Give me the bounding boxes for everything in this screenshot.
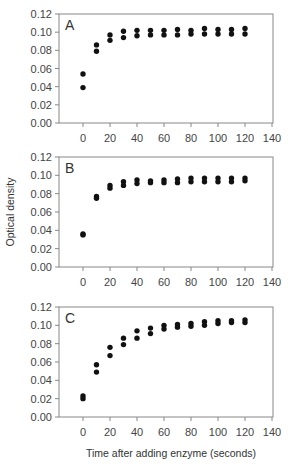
- data-point: [229, 31, 234, 36]
- x-tick-label: 60: [158, 276, 170, 288]
- x-tick-label: 140: [263, 426, 281, 438]
- plot-frame: [59, 157, 273, 267]
- data-point: [188, 324, 193, 329]
- data-point: [215, 179, 220, 184]
- data-point: [161, 32, 166, 37]
- y-tick-label: 0.10: [31, 169, 52, 181]
- panel-label: A: [65, 17, 75, 33]
- data-point: [80, 232, 85, 237]
- data-point: [242, 26, 247, 31]
- data-point: [107, 32, 112, 37]
- data-point: [202, 26, 207, 31]
- panel-c: 0.000.020.040.060.080.100.12020406080100…: [31, 301, 282, 438]
- y-tick-label: 0.12: [31, 151, 52, 163]
- data-point: [121, 29, 126, 34]
- x-tick-label: 20: [104, 276, 116, 288]
- panel-a: 0.000.020.040.060.080.100.12020406080100…: [31, 8, 282, 144]
- y-tick-label: 0.12: [31, 8, 52, 20]
- panel-label: B: [65, 160, 74, 176]
- x-tick-label: 80: [185, 276, 197, 288]
- y-tick-label: 0.08: [31, 44, 52, 56]
- data-point: [202, 179, 207, 184]
- x-tick-label: 120: [236, 426, 254, 438]
- data-point: [161, 180, 166, 185]
- data-point: [175, 324, 180, 329]
- x-tick-label: 20: [104, 426, 116, 438]
- x-tick-label: 60: [158, 132, 170, 144]
- data-point: [134, 328, 139, 333]
- data-point: [188, 179, 193, 184]
- data-point: [242, 320, 247, 325]
- data-point: [148, 325, 153, 330]
- x-tick-label: 120: [236, 132, 254, 144]
- y-tick-label: 0.08: [31, 338, 52, 350]
- y-tick-label: 0.08: [31, 188, 52, 200]
- plot-frame: [59, 307, 273, 417]
- data-point: [175, 180, 180, 185]
- y-tick-label: 0.02: [31, 99, 52, 111]
- data-point: [175, 32, 180, 37]
- y-tick-label: 0.10: [31, 319, 52, 331]
- x-axis-title: Time after adding enzyme (seconds): [86, 447, 256, 459]
- x-tick-label: 0: [80, 132, 86, 144]
- y-tick-label: 0.00: [31, 411, 52, 423]
- data-point: [134, 33, 139, 38]
- data-point: [134, 181, 139, 186]
- x-tick-label: 20: [104, 132, 116, 144]
- data-point: [161, 326, 166, 331]
- data-point: [148, 32, 153, 37]
- y-tick-label: 0.12: [31, 301, 52, 313]
- data-point: [242, 178, 247, 183]
- data-point: [121, 342, 126, 347]
- data-point: [148, 180, 153, 185]
- data-point: [94, 49, 99, 54]
- data-point: [242, 31, 247, 36]
- data-point: [215, 31, 220, 36]
- data-point: [94, 362, 99, 367]
- x-tick-label: 140: [263, 132, 281, 144]
- y-tick-label: 0.02: [31, 243, 52, 255]
- panel-b: 0.000.020.040.060.080.100.12020406080100…: [31, 151, 282, 288]
- x-tick-label: 40: [131, 426, 143, 438]
- data-point: [215, 321, 220, 326]
- y-tick-label: 0.04: [31, 224, 52, 236]
- data-point: [107, 185, 112, 190]
- data-point: [229, 179, 234, 184]
- x-tick-label: 60: [158, 426, 170, 438]
- x-tick-label: 40: [131, 276, 143, 288]
- x-tick-label: 80: [185, 132, 197, 144]
- y-tick-label: 0.06: [31, 206, 52, 218]
- data-point: [229, 320, 234, 325]
- data-point: [94, 369, 99, 374]
- panel-label: C: [65, 310, 75, 326]
- data-point: [121, 35, 126, 40]
- data-point: [121, 335, 126, 340]
- data-point: [94, 42, 99, 47]
- x-tick-label: 40: [131, 132, 143, 144]
- data-point: [94, 196, 99, 201]
- data-point: [134, 335, 139, 340]
- y-tick-label: 0.00: [31, 261, 52, 273]
- x-tick-label: 100: [209, 426, 227, 438]
- y-tick-label: 0.00: [31, 117, 52, 129]
- y-axis-title: Optical density: [4, 177, 16, 247]
- data-point: [107, 345, 112, 350]
- y-tick-label: 0.04: [31, 81, 52, 93]
- x-tick-label: 100: [209, 276, 227, 288]
- x-tick-label: 120: [236, 276, 254, 288]
- y-tick-label: 0.10: [31, 26, 52, 38]
- data-point: [175, 27, 180, 32]
- data-point: [121, 183, 126, 188]
- data-point: [202, 31, 207, 36]
- data-point: [80, 71, 85, 76]
- data-point: [202, 323, 207, 328]
- data-point: [188, 31, 193, 36]
- y-tick-label: 0.06: [31, 356, 52, 368]
- data-point: [148, 331, 153, 336]
- x-tick-label: 0: [80, 276, 86, 288]
- data-point: [107, 353, 112, 358]
- y-tick-label: 0.04: [31, 374, 52, 386]
- y-tick-label: 0.06: [31, 63, 52, 75]
- data-point: [80, 396, 85, 401]
- x-tick-label: 140: [263, 276, 281, 288]
